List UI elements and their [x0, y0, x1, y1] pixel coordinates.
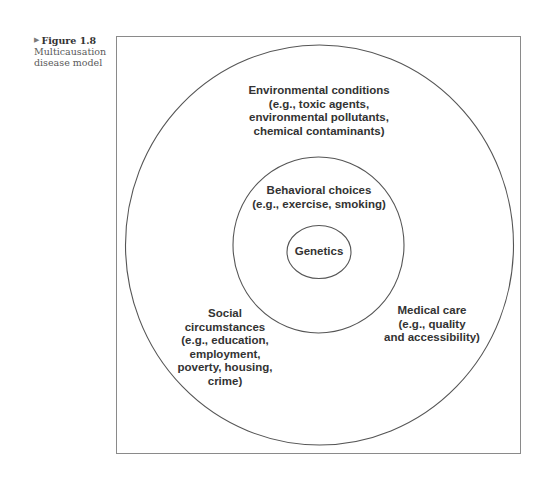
social-circumstances-label: Social circumstances (e.g., education, e…: [178, 307, 273, 388]
social-line-1: Social: [178, 307, 273, 321]
social-line-4: employment,: [178, 348, 273, 362]
environmental-conditions-label: Environmental conditions (e.g., toxic ag…: [248, 84, 389, 138]
environmental-line-1: Environmental conditions: [248, 84, 389, 98]
medical-line-3: and accessibility): [384, 331, 480, 345]
social-line-6: crime): [178, 375, 273, 389]
social-line-5: poverty, housing,: [178, 361, 273, 375]
environmental-line-4: chemical contaminants): [248, 125, 389, 139]
behavioral-choices-label: Behavioral choices (e.g., exercise, smok…: [252, 184, 386, 211]
genetics-line-1: Genetics: [295, 245, 344, 259]
medical-care-label: Medical care (e.g., quality and accessib…: [384, 304, 480, 345]
concentric-circles-diagram: [0, 0, 552, 487]
behavioral-line-1: Behavioral choices: [252, 184, 386, 198]
environmental-line-3: environmental pollutants,: [248, 111, 389, 125]
medical-line-2: (e.g., quality: [384, 318, 480, 332]
social-line-2: circumstances: [178, 321, 273, 335]
environmental-line-2: (e.g., toxic agents,: [248, 98, 389, 112]
social-line-3: (e.g., education,: [178, 334, 273, 348]
medical-line-1: Medical care: [384, 304, 480, 318]
behavioral-line-2: (e.g., exercise, smoking): [252, 198, 386, 212]
genetics-label: Genetics: [295, 245, 344, 259]
